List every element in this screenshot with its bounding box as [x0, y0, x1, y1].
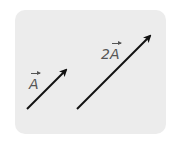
vector-2a-symbol: A [110, 47, 120, 61]
vector-a-symbol: A [29, 77, 39, 91]
vector-a-label: A [29, 77, 39, 91]
vector-diagram [0, 0, 172, 142]
vector-2a-coefficient: 2 [101, 46, 110, 62]
vector-2a-label: 2A [101, 47, 120, 61]
